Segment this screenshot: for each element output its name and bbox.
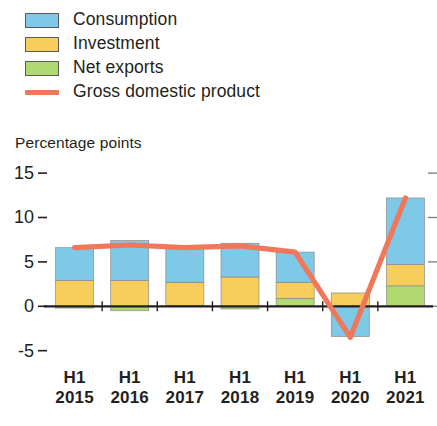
x-axis-label-period: H1: [102, 368, 157, 388]
legend-line-gdp-icon: [25, 85, 59, 100]
legend-item-gross-domestic-product: Gross domestic product: [14, 80, 434, 104]
x-axis-label-period: H1: [378, 368, 433, 388]
x-axis-labels: H12015H12016H12017H12018H12019H12020H120…: [0, 368, 437, 426]
x-axis-label-year: 2015: [47, 388, 102, 408]
x-axis-label-year: 2018: [212, 388, 267, 408]
x-axis-label: H12018: [212, 368, 267, 408]
legend-swatch-net-exports-icon: [25, 61, 59, 76]
y-tick-label: 10: [14, 207, 34, 227]
y-tick-label: 5: [24, 252, 34, 272]
bar-segment: [276, 298, 314, 306]
bar-series-group: [56, 198, 425, 337]
y-axis-ticks-right: [428, 173, 437, 306]
bar-segment: [386, 286, 424, 306]
x-axis-label: H12021: [378, 368, 433, 408]
bar-segment: [166, 248, 204, 283]
x-axis-label-period: H1: [47, 368, 102, 388]
bar-segment: [166, 282, 204, 305]
y-tick-label: 0: [24, 296, 34, 316]
x-axis-label-year: 2021: [378, 388, 433, 408]
bar-segment: [276, 282, 314, 298]
x-axis-label-period: H1: [268, 368, 323, 388]
y-axis-ticks: 151050-5: [14, 163, 47, 361]
x-axis-label: H12016: [102, 368, 157, 408]
bar-segment: [386, 265, 424, 286]
legend-item-investment: Investment: [14, 32, 434, 56]
x-axis-label-period: H1: [323, 368, 378, 388]
x-axis-label-year: 2017: [157, 388, 212, 408]
x-axis-label-year: 2020: [323, 388, 378, 408]
legend-label-investment: Investment: [73, 35, 160, 53]
chart-svg: 151050-5: [0, 160, 437, 370]
legend-swatch-consumption-icon: [25, 13, 59, 28]
legend-item-consumption: Consumption: [14, 8, 434, 32]
x-axis-label: H12017: [157, 368, 212, 408]
y-tick-label: 15: [14, 163, 34, 183]
legend-label-net-exports: Net exports: [73, 59, 164, 77]
legend-label-consumption: Consumption: [73, 11, 177, 29]
legend-label-gross-domestic-product: Gross domestic product: [73, 83, 260, 101]
bar-segment: [56, 248, 94, 281]
x-axis-label-year: 2019: [268, 388, 323, 408]
bar-segment: [111, 281, 149, 307]
x-axis-label-period: H1: [212, 368, 267, 388]
x-axis-label-period: H1: [157, 368, 212, 388]
x-axis-label: H12019: [268, 368, 323, 408]
y-tick-label: -5: [18, 341, 34, 361]
x-axis-label-year: 2016: [102, 388, 157, 408]
bar-segment: [56, 281, 94, 307]
chart-plot-area: 151050-5: [0, 160, 437, 370]
chart-legend: Consumption Investment Net exports Gross…: [14, 8, 434, 104]
legend-swatch-investment-icon: [25, 37, 59, 52]
x-axis-label: H12020: [323, 368, 378, 408]
legend-item-net-exports: Net exports: [14, 56, 434, 80]
bar-segment: [221, 277, 259, 306]
x-axis-label: H12015: [47, 368, 102, 408]
y-axis-title: Percentage points: [15, 134, 142, 152]
